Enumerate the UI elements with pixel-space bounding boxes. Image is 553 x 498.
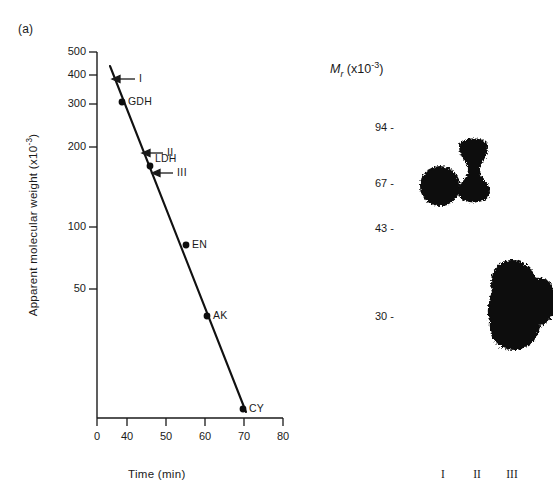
panel-b-gel: (b) Mr (x10-3) 94- 67- 43- 30-	[300, 0, 553, 498]
y-tick-label-500: 500	[52, 45, 86, 57]
x-tick-label-80: 80	[270, 430, 296, 442]
gel-band-lane-iii	[488, 260, 553, 350]
point-label-ak: AK	[213, 309, 227, 321]
gel-band-lane-i	[420, 166, 460, 206]
x-tick-label-0: 0	[84, 430, 110, 442]
data-point-ldh	[147, 163, 154, 170]
calibration-line	[110, 66, 246, 412]
y-tick-label-300: 300	[52, 97, 86, 109]
gel-lane-label-i: I	[429, 468, 457, 480]
data-point-cy	[240, 406, 247, 413]
gel-lane-label-iii: III	[498, 468, 526, 480]
y-axis-title: Apparent molecular weight (x10-3)	[25, 125, 39, 325]
gel-band-lane-ii	[458, 139, 490, 203]
y-axis-title-close: )	[27, 134, 39, 138]
data-point-en	[183, 242, 190, 249]
x-tick-label-70: 70	[231, 430, 257, 442]
annotation-label-i: I	[139, 72, 142, 84]
x-axis-title: Time (min)	[128, 468, 186, 480]
chart-plot-area	[0, 0, 300, 498]
annotation-label-iii: III	[177, 166, 187, 178]
gel-lane-label-ii: II	[463, 468, 491, 480]
point-label-en: EN	[192, 238, 207, 250]
y-axis-title-exponent: -3	[25, 138, 34, 146]
data-point-ak	[204, 313, 211, 320]
y-tick-label-200: 200	[52, 140, 86, 152]
data-point-gdh	[119, 99, 126, 106]
x-tick-label-50: 50	[153, 430, 179, 442]
x-tick-label-60: 60	[192, 430, 218, 442]
x-tick-marks	[97, 418, 283, 426]
point-label-cy: CY	[249, 402, 264, 414]
x-tick-label-40: 40	[114, 430, 140, 442]
y-axis-title-text: Apparent molecular weight (x10	[27, 146, 39, 317]
panel-a-chart: (a)	[0, 0, 300, 498]
point-label-gdh: GDH	[128, 95, 152, 107]
y-tick-marks	[89, 52, 97, 289]
y-tick-label-100: 100	[52, 220, 86, 232]
figure-root: (a)	[0, 0, 553, 498]
gel-image-area	[300, 0, 553, 498]
annotation-label-ii: II	[167, 146, 174, 158]
y-tick-label-400: 400	[52, 68, 86, 80]
y-tick-label-50: 50	[52, 282, 86, 294]
